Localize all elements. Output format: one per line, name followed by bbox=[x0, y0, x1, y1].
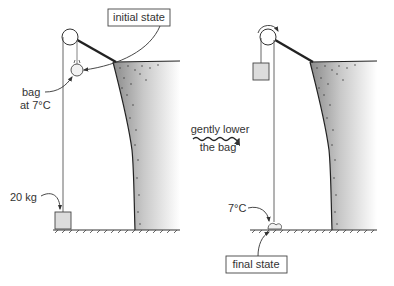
ground-right bbox=[250, 230, 377, 233]
weight-20kg-final bbox=[253, 63, 269, 80]
cliff-left bbox=[113, 61, 180, 230]
bag-label-line2: at 7°C bbox=[20, 99, 51, 111]
weight-20kg-initial bbox=[55, 212, 71, 229]
transition-line2: the bag bbox=[200, 141, 237, 153]
initial-panel: initial state bag at 7°C 20 kg bbox=[10, 9, 180, 233]
pulley-right bbox=[258, 25, 313, 62]
transition-label: gently lower the bag bbox=[191, 123, 250, 153]
pulley-left bbox=[62, 29, 116, 62]
cliff-right bbox=[310, 61, 377, 230]
final-temp-label: 7°C bbox=[228, 202, 269, 221]
weight-label-text: 20 kg bbox=[10, 191, 37, 203]
ice-bag-final bbox=[268, 223, 282, 229]
diagram-canvas: initial state bag at 7°C 20 kg gently lo… bbox=[0, 0, 394, 286]
initial-state-text: initial state bbox=[113, 11, 165, 23]
bag-temp-label: bag at 7°C bbox=[20, 77, 72, 111]
ground-left bbox=[53, 230, 180, 233]
final-state-label: final state bbox=[226, 232, 287, 273]
weight-label: 20 kg bbox=[10, 191, 60, 209]
final-temp-text: 7°C bbox=[228, 202, 247, 214]
final-state-text: final state bbox=[232, 258, 279, 270]
bag-label-line1: bag bbox=[22, 86, 40, 98]
final-panel: 7°C final state bbox=[226, 25, 377, 273]
transition-line1: gently lower bbox=[191, 123, 250, 135]
